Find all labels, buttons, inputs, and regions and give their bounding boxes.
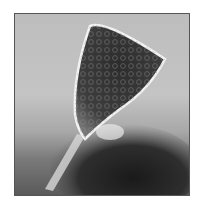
micrograph <box>14 13 190 196</box>
micrograph-illustration <box>15 14 190 196</box>
